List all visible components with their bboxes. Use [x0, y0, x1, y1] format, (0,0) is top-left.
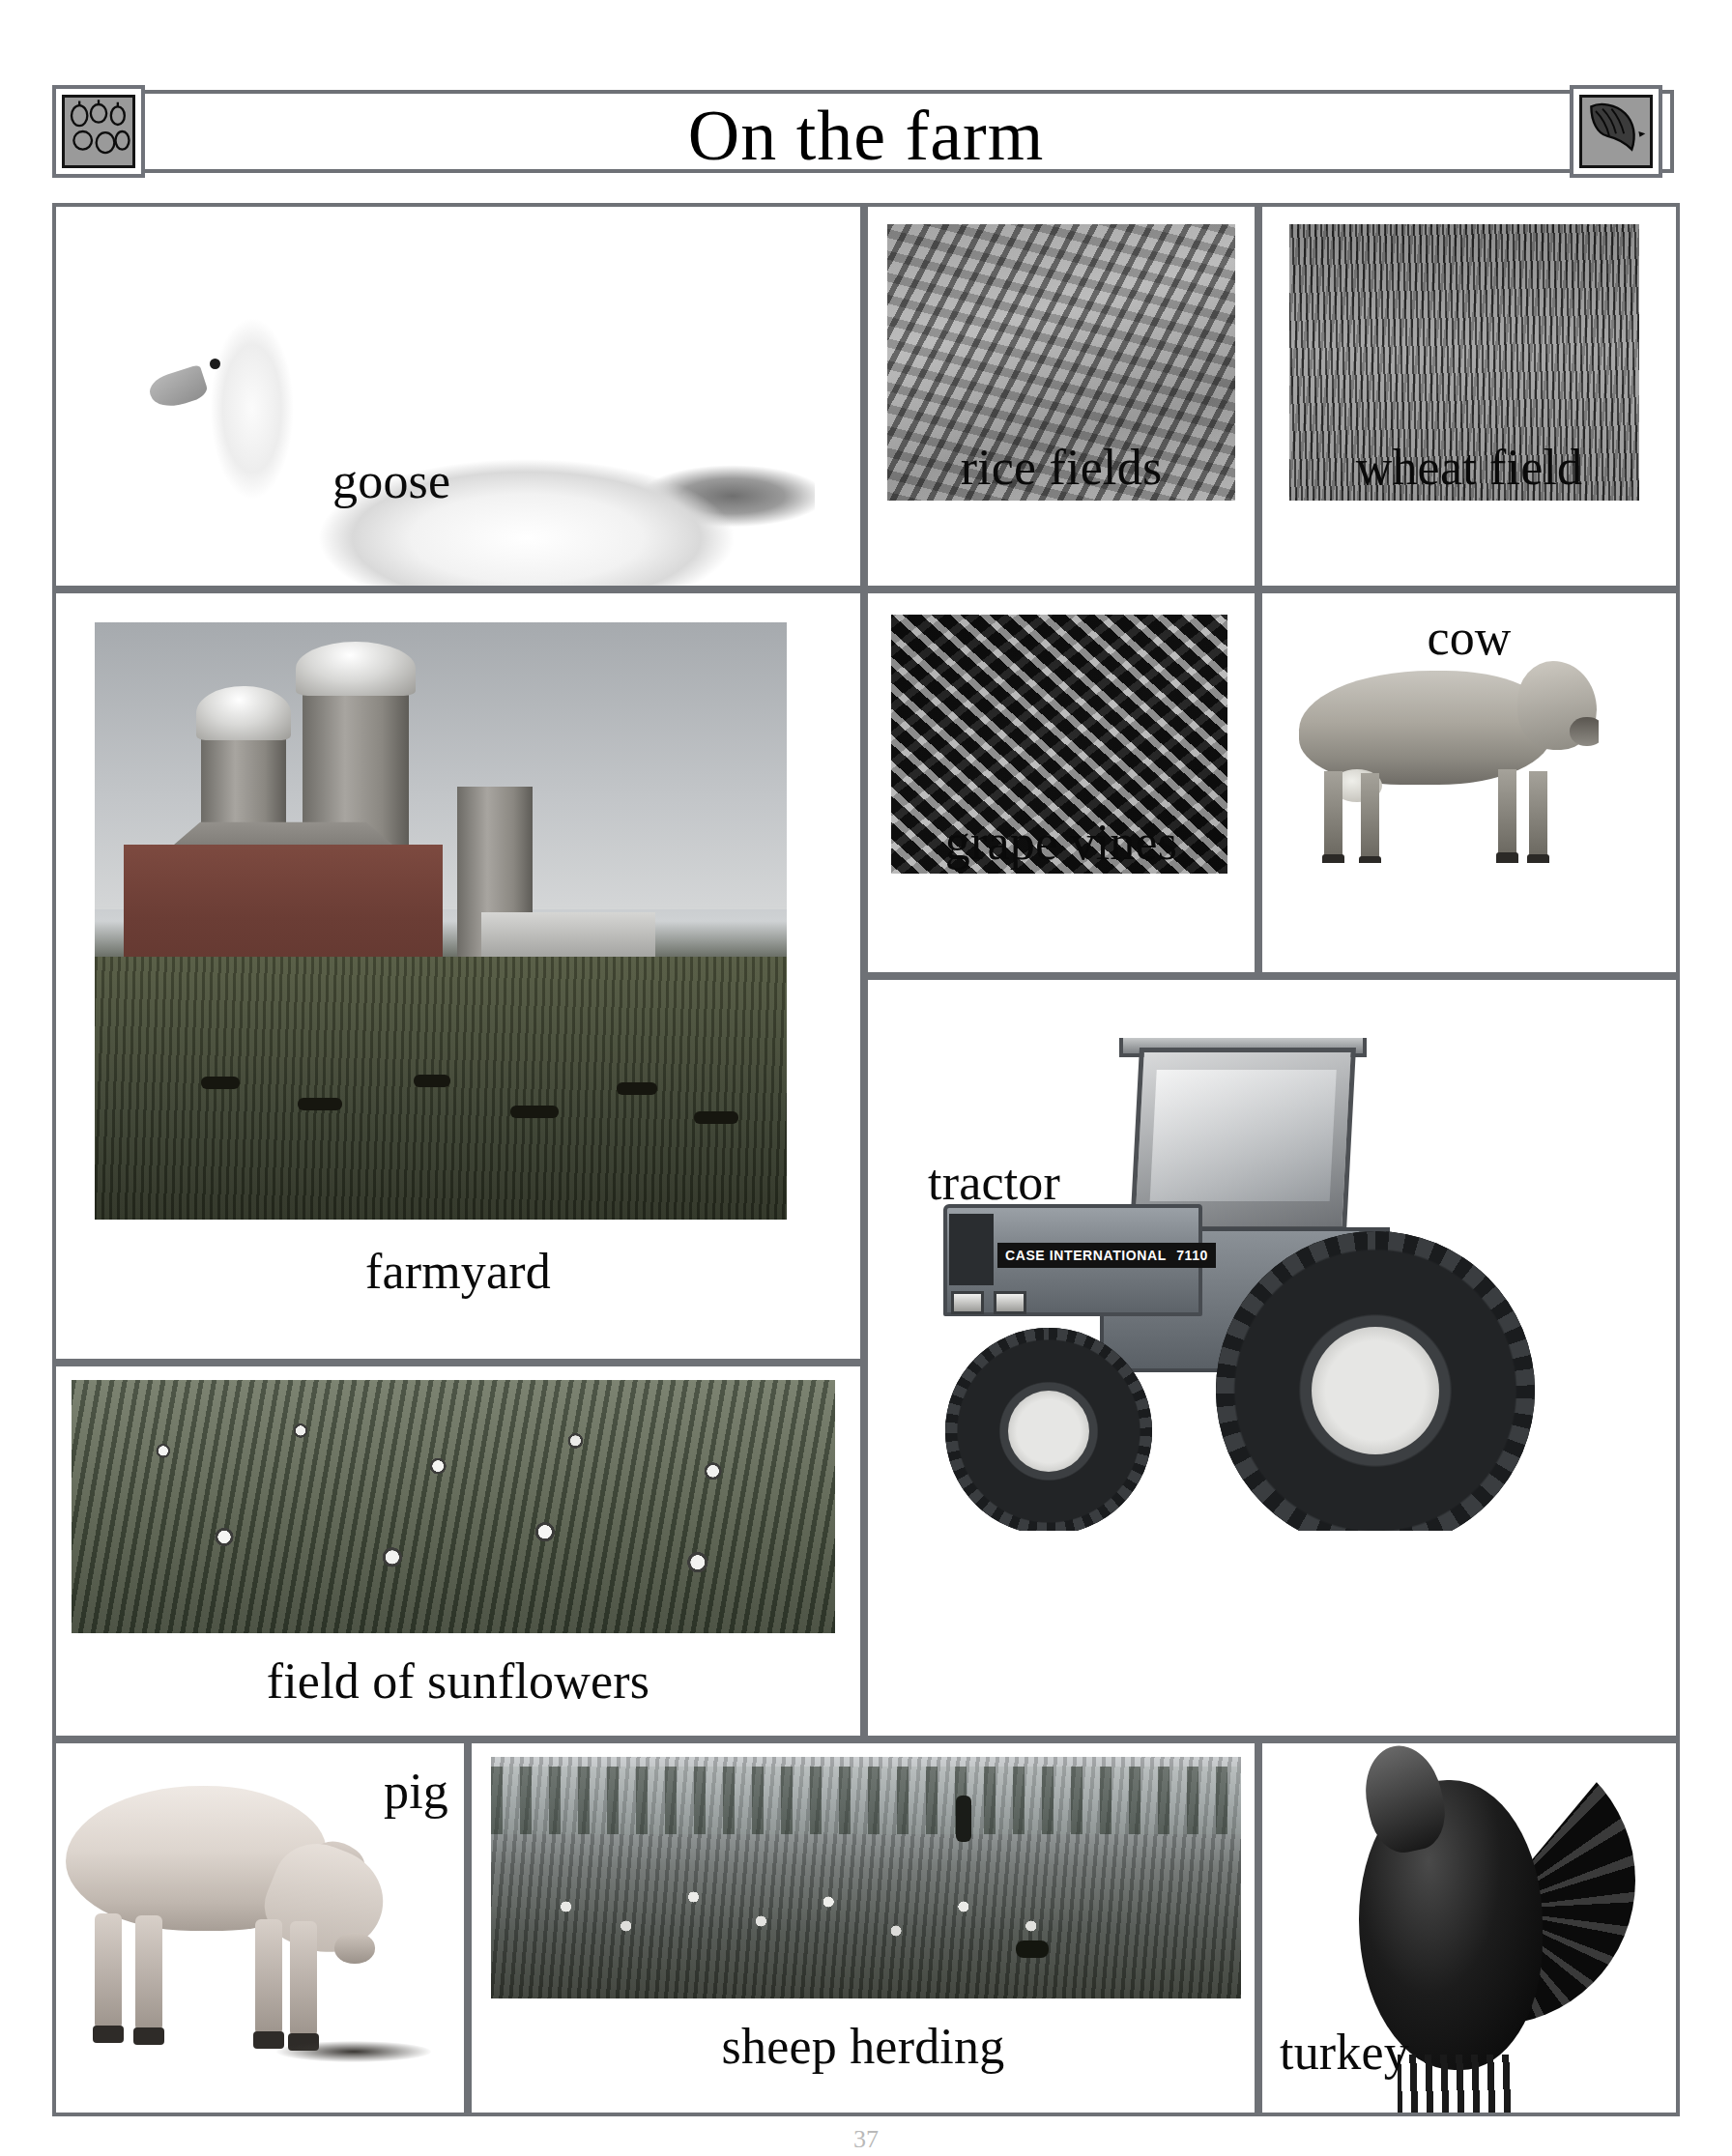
tractor-rear-wheel [1216, 1231, 1535, 1531]
cell-rice-fields[interactable]: rice fields [864, 203, 1258, 589]
tractor-headlight-right [994, 1291, 1026, 1314]
cell-goose[interactable]: goose [52, 203, 864, 589]
cow-in-field [298, 1098, 342, 1110]
sheep-herding-photo [491, 1757, 1241, 1998]
cow-body [1299, 671, 1552, 785]
label-rice-fields: rice fields [961, 443, 1163, 493]
label-turkey: turkey [1280, 2027, 1409, 2078]
cow-muzzle [1570, 717, 1599, 746]
pig-snout [334, 1933, 375, 1964]
goose-eye [210, 359, 220, 369]
page-root: On the farm [0, 0, 1732, 2156]
cell-sheep-herding[interactable]: sheep herding [468, 1739, 1258, 2116]
label-pig: pig [384, 1767, 448, 1817]
cow-photo [1280, 636, 1599, 863]
cell-farmyard[interactable]: farmyard [52, 589, 864, 1363]
cell-grape-vines[interactable]: grape vines [864, 589, 1258, 976]
label-wheat-field: wheat field [1356, 443, 1583, 493]
cow-in-field [694, 1111, 738, 1124]
sunflower-field-photo [72, 1380, 835, 1633]
cow-in-field [510, 1106, 559, 1118]
pig-ground-shadow [276, 2041, 431, 2062]
farmyard-field [95, 957, 787, 1220]
tractor-headlight-left [951, 1291, 984, 1314]
label-sunflowers: field of sunflowers [267, 1656, 650, 1707]
page-number: 37 [0, 2125, 1732, 2154]
cell-cow[interactable]: cow [1258, 589, 1680, 976]
tractor-photo: CASE INTERNATIONAL 7110 [926, 1038, 1554, 1531]
tractor-front-wheel [945, 1328, 1152, 1531]
label-farmyard: farmyard [365, 1247, 551, 1297]
shepherd-figure [956, 1796, 971, 1842]
cell-pig[interactable]: pig [52, 1739, 468, 2116]
tractor-grille [949, 1214, 994, 1285]
goose-beak [146, 364, 210, 413]
label-grape-vines: grape vines [945, 818, 1177, 868]
chicks-icon [52, 85, 145, 178]
tractor-windshield [1150, 1070, 1337, 1201]
sheepdog [1016, 1940, 1049, 1958]
cow-in-field [617, 1082, 657, 1095]
header-bar: On the farm [58, 90, 1674, 173]
cell-wheat-field[interactable]: wheat field [1258, 203, 1680, 589]
tractor-decal: CASE INTERNATIONAL 7110 [997, 1243, 1216, 1268]
chicks-icon-art [65, 98, 132, 165]
cow-in-field [414, 1075, 450, 1087]
label-goose: goose [332, 456, 450, 506]
farmyard-photo [95, 622, 787, 1220]
horse-head-icon [1570, 85, 1662, 178]
label-sheep-herding: sheep herding [722, 2022, 1005, 2072]
tractor-brand-text: CASE INTERNATIONAL [1005, 1248, 1167, 1263]
horse-head-icon-art [1582, 98, 1650, 165]
tractor-model-text: 7110 [1176, 1248, 1208, 1263]
goose-photo [129, 318, 815, 589]
page-title: On the farm [62, 94, 1670, 177]
turkey-legs [1398, 2055, 1514, 2116]
cow-in-field [201, 1077, 240, 1089]
tree-line [491, 1767, 1241, 1834]
cell-turkey[interactable]: turkey [1258, 1739, 1680, 2116]
cell-tractor[interactable]: tractor CASE INTERNATIONAL 7110 [864, 976, 1680, 1739]
cell-sunflowers[interactable]: field of sunflowers [52, 1363, 864, 1739]
